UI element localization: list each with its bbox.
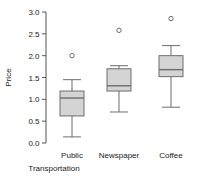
y-axis-tick-label: 0.5 <box>28 117 40 126</box>
y-axis-tick-label: 0.0 <box>28 139 40 148</box>
x-axis-category-label-line2: Transportation <box>28 164 79 173</box>
outlier-point <box>169 16 173 20</box>
y-axis-tick-label: 1.0 <box>28 95 40 104</box>
boxplot-group: Newspaper <box>99 28 140 160</box>
y-axis-tick-label: 2.0 <box>28 52 40 61</box>
boxplot-group: Coffee <box>159 16 183 160</box>
x-axis-category-label: Newspaper <box>99 151 140 160</box>
box-body <box>60 91 84 116</box>
outlier-point <box>117 28 121 32</box>
y-axis-tick-label: 3.0 <box>28 8 40 17</box>
box-body <box>107 69 131 91</box>
boxplot-chart: 0.00.51.01.52.02.53.0PricePublicTranspor… <box>0 0 201 179</box>
x-axis-category-label: Coffee <box>159 151 183 160</box>
y-axis-title: Price <box>4 68 13 87</box>
outlier-point <box>70 53 74 57</box>
chart-canvas: 0.00.51.01.52.02.53.0PricePublicTranspor… <box>0 0 201 179</box>
boxplot-group: PublicTransportation <box>28 53 84 173</box>
y-axis-tick-label: 2.5 <box>28 30 40 39</box>
x-axis-category-label: Public <box>61 151 83 160</box>
y-axis-tick-label: 1.5 <box>28 74 40 83</box>
box-body <box>159 56 183 77</box>
